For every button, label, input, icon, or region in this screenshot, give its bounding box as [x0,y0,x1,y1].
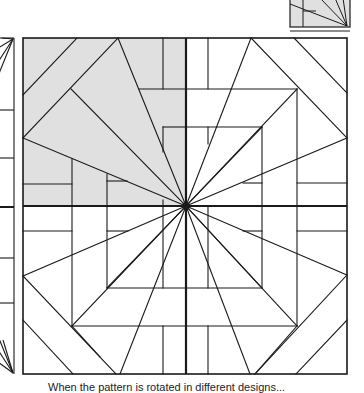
center-point [182,202,190,210]
left-neighbor-pattern [0,38,14,374]
thumbnail-pattern [290,0,350,35]
figure-caption: When the pattern is rotated in different… [48,381,285,393]
main-block [23,38,347,374]
